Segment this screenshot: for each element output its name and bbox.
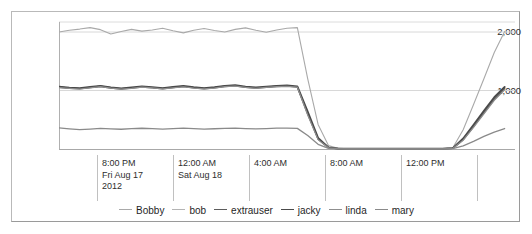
x-axis-tick: 4:00 AM	[249, 155, 325, 201]
legend-label: jacky	[298, 205, 321, 216]
legend-swatch-icon	[375, 209, 388, 210]
legend-swatch-icon	[214, 209, 227, 210]
x-axis-tick: 12:00 PM	[401, 155, 477, 201]
legend-item-mary[interactable]: mary	[375, 201, 414, 219]
legend-label: bob	[189, 205, 206, 216]
x-axis-tick-label: 8:00 PM	[102, 158, 173, 170]
legend-swatch-icon	[119, 209, 132, 210]
legend-item-linda[interactable]: linda	[329, 201, 367, 219]
legend-swatch-icon	[281, 209, 294, 210]
x-axis-labels: 8:00 PMFri Aug 17201212:00 AMSat Aug 184…	[59, 155, 515, 201]
legend-item-bobby[interactable]: Bobby	[119, 201, 164, 219]
legend-label: mary	[392, 205, 414, 216]
x-axis-tick: 12:00 AMSat Aug 18	[173, 155, 249, 201]
legend-item-bob[interactable]: bob	[172, 201, 206, 219]
legend-item-extrauser[interactable]: extrauser	[214, 201, 273, 219]
x-axis-tick: 8:00 PMFri Aug 172012	[97, 155, 173, 201]
legend-label: linda	[346, 205, 367, 216]
legend-label: extrauser	[231, 205, 273, 216]
series-line-linda	[59, 86, 505, 149]
chart-legend: Bobbybobextrauserjackylindamary	[12, 200, 521, 219]
legend-swatch-icon	[172, 209, 185, 210]
series-line-extrauser	[59, 86, 505, 149]
plot-lines	[59, 16, 515, 154]
chart-panel: 1,0002,000 8:00 PMFri Aug 17201212:00 AM…	[11, 11, 520, 222]
series-line-mary	[59, 128, 505, 149]
chart-area: 1,0002,000 8:00 PMFri Aug 17201212:00 AM…	[12, 12, 521, 223]
legend-label: Bobby	[136, 205, 164, 216]
x-axis-tick-label: Sat Aug 18	[178, 170, 249, 182]
x-axis-tick-label: 12:00 AM	[178, 158, 249, 170]
series-line-bob	[59, 86, 505, 149]
x-axis-tick	[477, 155, 532, 201]
x-axis-tick-label: 2012	[102, 181, 173, 193]
x-axis-tick-label: Fri Aug 17	[102, 170, 173, 182]
legend-item-jacky[interactable]: jacky	[281, 201, 321, 219]
x-axis-tick: 8:00 AM	[325, 155, 401, 201]
series-line-jacky	[59, 85, 505, 148]
x-axis-tick-label: 8:00 AM	[330, 158, 401, 170]
legend-swatch-icon	[329, 209, 342, 210]
chart-screenshot: 1,0002,000 8:00 PMFri Aug 17201212:00 AM…	[0, 0, 532, 234]
x-axis-tick-label: 12:00 PM	[406, 158, 477, 170]
x-axis-tick-label: 4:00 AM	[254, 158, 325, 170]
